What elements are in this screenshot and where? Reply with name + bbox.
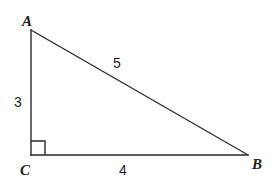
vertex-label-b: B [252, 157, 262, 172]
side-label-leg-horizontal: 4 [119, 163, 127, 177]
side-label-leg-vertical: 3 [14, 95, 22, 109]
triangle-figure: A C B 3 5 4 [0, 0, 276, 191]
vertex-label-a: A [22, 14, 32, 29]
triangle-edge-ab [31, 30, 248, 155]
triangle-drawing [0, 0, 276, 191]
vertex-label-c: C [20, 163, 30, 178]
side-label-hypotenuse: 5 [113, 56, 121, 70]
right-angle-marker-icon [31, 141, 45, 155]
